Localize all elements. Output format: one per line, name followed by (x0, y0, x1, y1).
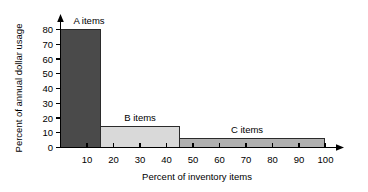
series-labels: A items B items C items (73, 15, 263, 135)
series-label-c-items: C items (231, 124, 263, 135)
y-axis-ticks (56, 30, 61, 148)
series-label-a-items: A items (73, 15, 104, 26)
x-tick-label-20: 20 (108, 154, 119, 165)
y-tick-label-70: 70 (42, 39, 53, 50)
y-tick-label-20: 20 (42, 113, 53, 124)
y-tick-label-0: 0 (48, 142, 53, 153)
x-tick-label-30: 30 (135, 154, 146, 165)
x-axis-arrowhead (336, 144, 344, 151)
x-tick-label-50: 50 (188, 154, 199, 165)
y-tick-label-30: 30 (42, 98, 53, 109)
y-axis-tick-labels: 0 10 20 30 40 50 60 70 80 (42, 24, 53, 153)
x-tick-label-40: 40 (161, 154, 172, 165)
x-tick-label-90: 90 (294, 154, 305, 165)
x-tick-label-70: 70 (241, 154, 252, 165)
y-axis-title: Percent of annual dollar usage (13, 24, 24, 153)
bars-group (61, 30, 325, 148)
y-tick-label-50: 50 (42, 68, 53, 79)
abc-inventory-chart: 0 10 20 30 40 50 60 70 80 10 20 (0, 0, 368, 192)
y-tick-label-80: 80 (42, 24, 53, 35)
x-axis-tick-labels: 10 20 30 40 50 60 70 80 90 100 (82, 154, 334, 165)
x-tick-label-100: 100 (318, 154, 334, 165)
bar-a-items (61, 30, 101, 148)
series-label-b-items: B items (124, 112, 156, 123)
x-tick-label-80: 80 (267, 154, 278, 165)
x-axis-title: Percent of inventory items (142, 171, 252, 182)
y-tick-label-10: 10 (42, 127, 53, 138)
y-axis-arrowhead (57, 14, 64, 22)
y-tick-label-40: 40 (42, 83, 53, 94)
bar-c-items (180, 139, 325, 148)
chart-canvas: 0 10 20 30 40 50 60 70 80 10 20 (0, 0, 368, 192)
x-tick-label-60: 60 (214, 154, 225, 165)
y-tick-label-60: 60 (42, 54, 53, 65)
x-tick-label-10: 10 (82, 154, 93, 165)
